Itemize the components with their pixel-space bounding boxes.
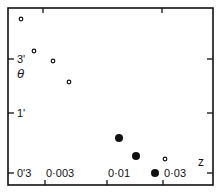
data-point-filled — [132, 152, 140, 160]
data-point-open — [163, 157, 167, 161]
data-point-filled — [151, 169, 159, 177]
data-point-open — [67, 80, 71, 84]
data-point-open — [19, 17, 23, 21]
plot-frame — [8, 8, 213, 185]
data-point-open — [32, 49, 36, 53]
x-tick-label-0-01: 0·01 — [108, 168, 130, 179]
data-point-open — [51, 59, 55, 63]
x-tick-label-0-003: 0·003 — [46, 168, 74, 179]
y-tick-label-3: 3' — [17, 54, 25, 65]
y-tick-label-0-3: 0'3 — [17, 168, 31, 179]
scatter-plot — [0, 0, 220, 193]
data-point-filled — [115, 134, 123, 142]
x-tick-label-0-03: 0·03 — [164, 168, 186, 179]
x-axis-label: z — [198, 157, 204, 168]
y-axis-label: θ — [17, 68, 24, 79]
y-tick-label-1: 1' — [17, 108, 25, 119]
